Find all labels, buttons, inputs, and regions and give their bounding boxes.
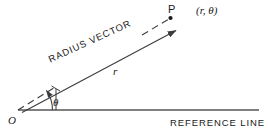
- point-p-marker: [168, 16, 172, 20]
- polar-coordinate-diagram: P (r, θ) O θ r RADIUS VECTOR REFERENCE L…: [0, 0, 268, 133]
- diagram-canvas: [0, 0, 268, 133]
- origin-label: O: [8, 115, 16, 126]
- radius-vector-dashed-lower: [18, 86, 57, 110]
- coordinates-label: (r, θ): [196, 5, 217, 16]
- magnitude-arrow-r: [22, 31, 176, 113]
- magnitude-r-label: r: [113, 66, 117, 77]
- point-p-label: P: [168, 4, 176, 15]
- radius-vector-dashed-upper: [142, 19, 169, 35]
- reference-line-label: REFERENCE LINE: [170, 118, 265, 128]
- angle-arc: [47, 91, 53, 111]
- angle-theta-label: θ: [53, 97, 58, 108]
